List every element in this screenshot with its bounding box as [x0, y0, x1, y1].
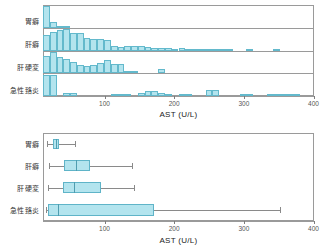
histogram-x-ticklabel: 200 — [169, 100, 180, 107]
histogram-bar — [43, 35, 50, 50]
histogram-x-axis — [43, 96, 314, 97]
histogram-bar — [50, 32, 57, 51]
boxplot-panel: 胃癖 肝癖 肝硬変 — [0, 128, 324, 251]
histogram-bar — [70, 62, 77, 73]
boxplot-category-label-3: 肝硬変 — [0, 185, 39, 193]
histogram-bar — [104, 60, 111, 73]
boxplot-median — [74, 182, 75, 193]
boxplot-whisker-high — [154, 210, 280, 211]
boxplot-median — [56, 139, 57, 149]
histogram-bar — [70, 33, 77, 50]
boxplot-whisker-cap-low — [47, 141, 48, 147]
histogram-bars-group-1 — [43, 5, 314, 28]
histogram-x-axis-title: AST (U/L) — [43, 110, 314, 119]
histogram-bar — [63, 29, 70, 50]
boxplot-x-tick — [105, 221, 106, 224]
histogram-x-tick — [314, 96, 315, 99]
histogram-bar — [97, 39, 104, 51]
boxplot-whisker-cap-high — [280, 207, 281, 213]
boxplot-group-2 — [43, 155, 314, 177]
histogram-bar — [77, 65, 84, 73]
boxplot-whisker-low — [49, 166, 64, 167]
boxplot-x-axis-title: AST (U/L) — [43, 236, 314, 245]
histogram-x-tick — [244, 96, 245, 99]
boxplot-group-1 — [43, 133, 314, 155]
boxplot-category-label-1: 胃癖 — [0, 141, 39, 149]
histogram-bar — [118, 64, 125, 73]
histogram-bar — [104, 40, 111, 50]
histogram-bars-group-4 — [43, 73, 314, 96]
histogram-x-ticklabel: 400 — [308, 100, 319, 107]
boxplot-whisker-low — [48, 188, 63, 189]
histogram-category-label-1: 胃癖 — [0, 18, 39, 26]
boxplot-whisker-cap-low — [48, 185, 49, 191]
histogram-x-tick — [105, 96, 106, 99]
boxplot-box — [48, 204, 154, 216]
histogram-bar — [50, 52, 57, 73]
histogram-category-label-4: 急性臵炎 — [0, 87, 39, 95]
boxplot-category-label-4: 急性臵炎 — [0, 207, 39, 215]
boxplot-x-axis — [43, 221, 314, 222]
histogram-bar — [97, 63, 104, 74]
histogram-bar — [50, 75, 57, 96]
boxplot-x-tick — [174, 221, 175, 224]
boxplot-box — [64, 160, 91, 171]
histogram-x-tick — [174, 96, 175, 99]
boxplot-median — [58, 204, 59, 216]
figure-ast-distributions: 胃癖 肝癖 — [0, 0, 324, 251]
boxplot-x-ticklabel: 200 — [169, 225, 180, 232]
histogram-category-label-2: 肝癖 — [0, 41, 39, 49]
boxplot-whisker-cap-low — [49, 163, 50, 169]
boxplot-whisker-high — [90, 166, 132, 167]
boxplot-whisker-high — [101, 188, 134, 189]
boxplot-whisker-cap-high — [134, 185, 135, 191]
boxplot-group-3 — [43, 177, 314, 199]
boxplot-x-tick — [244, 221, 245, 224]
boxplot-whisker-cap-high — [132, 163, 133, 169]
histogram-bar — [77, 33, 84, 51]
boxplot-category-label-2: 肝癖 — [0, 163, 39, 171]
histogram-bars-group-3 — [43, 51, 314, 74]
boxplot-box — [63, 182, 101, 193]
boxplot-whisker-high — [59, 144, 75, 145]
histogram-x-ticklabel: 100 — [99, 100, 110, 107]
boxplot-x-ticklabel: 100 — [99, 225, 110, 232]
boxplot-x-ticklabel: 300 — [238, 225, 249, 232]
histogram-x-ticklabel: 300 — [238, 100, 249, 107]
histogram-panel: 胃癖 肝癖 — [0, 0, 324, 122]
histogram-bar — [63, 59, 70, 73]
histogram-bar — [90, 65, 97, 73]
boxplot-whisker-cap-low — [46, 207, 47, 213]
histogram-category-label-3: 肝硬変 — [0, 64, 39, 72]
boxplot-group-4 — [43, 199, 314, 221]
histogram-bar — [90, 39, 97, 51]
boxplot-median — [76, 160, 77, 171]
histogram-bars-group-2 — [43, 28, 314, 51]
histogram-bar — [43, 75, 50, 96]
boxplot-x-tick — [314, 221, 315, 224]
boxplot-x-ticklabel: 400 — [308, 225, 319, 232]
histogram-bar — [43, 56, 50, 74]
boxplot-whisker-cap-high — [75, 141, 76, 147]
histogram-bar — [43, 6, 50, 27]
